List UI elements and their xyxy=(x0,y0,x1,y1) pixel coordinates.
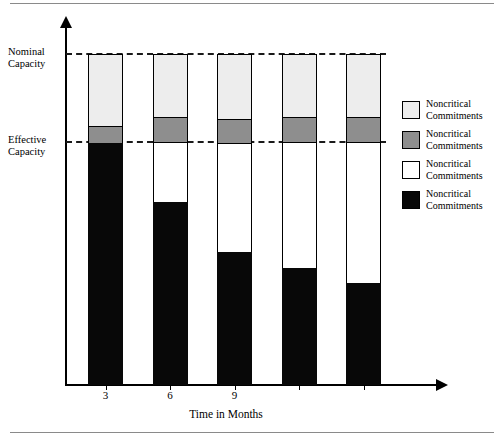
legend-label: Noncritical Commitments xyxy=(426,98,500,121)
legend-item[interactable]: Noncritical Commitments xyxy=(402,98,502,128)
bar-segment-buffer[interactable] xyxy=(282,117,317,142)
bar-segment-buffer[interactable] xyxy=(217,119,252,143)
bar-segment-buffer[interactable] xyxy=(153,117,188,142)
bar-segment-committed[interactable] xyxy=(88,143,123,385)
bar-segment-committed[interactable] xyxy=(217,252,252,385)
legend-label-line1: Noncritical xyxy=(426,98,471,109)
bar-segment-slack[interactable] xyxy=(282,142,317,268)
bar-stack[interactable] xyxy=(217,54,252,385)
legend-swatch-committed xyxy=(402,191,420,209)
legend-label-line2: Commitments xyxy=(426,140,500,152)
bar-stack[interactable] xyxy=(153,54,188,385)
bar-stack[interactable] xyxy=(282,54,317,385)
page-rule-bottom xyxy=(10,432,494,433)
bar-segment-buffer[interactable] xyxy=(88,126,123,143)
figure-stacked-bar-chart: Nominal Capacity Effective Capacity Time… xyxy=(0,8,504,426)
bar-segment-nominal-top[interactable] xyxy=(346,54,381,117)
bar-segment-nominal-top[interactable] xyxy=(88,54,123,126)
legend-label-line2: Commitments xyxy=(426,110,500,122)
bar-segment-nominal-top[interactable] xyxy=(217,54,252,119)
x-axis-tick-label: 6 xyxy=(150,389,190,401)
bar-segment-nominal-top[interactable] xyxy=(153,54,188,117)
page-rule-top xyxy=(10,3,494,4)
bar-segment-slack[interactable] xyxy=(346,142,381,283)
legend-label: Noncritical Commitments xyxy=(426,158,500,181)
x-axis-tick xyxy=(299,386,300,390)
legend-label-line2: Commitments xyxy=(426,170,500,182)
bar-segment-nominal-top[interactable] xyxy=(282,54,317,117)
legend-item[interactable]: Noncritical Commitments xyxy=(402,158,502,188)
legend-swatch-buffer xyxy=(402,131,420,149)
x-axis-tick-label: 9 xyxy=(215,389,255,401)
bar-stack[interactable] xyxy=(88,54,123,385)
legend-swatch-slack xyxy=(402,161,420,179)
legend-label-line1: Noncritical xyxy=(426,128,471,139)
bar-segment-slack[interactable] xyxy=(153,142,188,202)
bar-segment-committed[interactable] xyxy=(282,268,317,386)
x-axis-tick xyxy=(364,386,365,390)
legend-label-line2: Commitments xyxy=(426,200,500,212)
legend-label-line1: Noncritical xyxy=(426,158,471,169)
legend-label: Noncritical Commitments xyxy=(426,188,500,211)
legend: Noncritical Commitments Noncritical Comm… xyxy=(402,98,502,218)
bar-segment-slack[interactable] xyxy=(217,143,252,253)
legend-item[interactable]: Noncritical Commitments xyxy=(402,188,502,218)
legend-swatch-nominal-top xyxy=(402,101,420,119)
bar-segment-buffer[interactable] xyxy=(346,117,381,142)
legend-label: Noncritical Commitments xyxy=(426,128,500,151)
bar-segment-committed[interactable] xyxy=(153,202,188,385)
legend-item[interactable]: Noncritical Commitments xyxy=(402,128,502,158)
bar-stack[interactable] xyxy=(346,54,381,385)
x-axis-tick-label: 3 xyxy=(86,389,126,401)
x-axis-title: Time in Months xyxy=(66,408,386,420)
legend-label-line1: Noncritical xyxy=(426,188,471,199)
bar-segment-committed[interactable] xyxy=(346,283,381,385)
